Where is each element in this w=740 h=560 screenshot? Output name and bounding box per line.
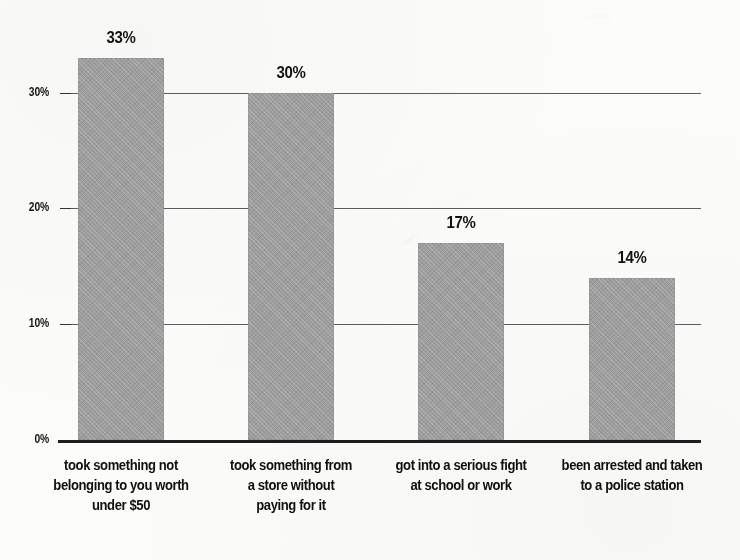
bar-3[interactable] <box>418 243 504 440</box>
chart-page: 30% 20% 10% 0% 33% 30% 17% 14% took some… <box>0 0 740 560</box>
x-axis-baseline <box>58 440 701 443</box>
ytick-label-20: 20% <box>9 200 49 214</box>
bar-value-4: 14% <box>594 248 670 268</box>
category-label-4: been arrested and taken to a police stat… <box>556 455 707 495</box>
bar-4[interactable] <box>589 278 675 440</box>
gridline-20 <box>71 208 701 209</box>
ytick-mark-20 <box>60 208 71 209</box>
ytick-label-30: 30% <box>9 85 49 99</box>
category-label-2: took something from a store without payi… <box>221 455 361 515</box>
plot-area: 30% 20% 10% 0% 33% 30% 17% 14% took some… <box>0 0 740 560</box>
category-label-3: got into a serious fight at school or wo… <box>386 455 535 495</box>
bar-1[interactable] <box>78 58 164 440</box>
bar-value-3: 17% <box>423 213 499 233</box>
ytick-mark-10 <box>60 324 71 325</box>
bar-2[interactable] <box>248 93 334 440</box>
category-label-1: took something not belonging to you wort… <box>49 455 193 515</box>
gridline-30 <box>71 93 701 94</box>
bar-value-1: 33% <box>83 28 159 48</box>
ytick-label-10: 10% <box>9 316 49 330</box>
ytick-mark-30 <box>60 93 71 94</box>
bar-value-2: 30% <box>253 63 329 83</box>
ytick-label-0: 0% <box>9 432 49 446</box>
